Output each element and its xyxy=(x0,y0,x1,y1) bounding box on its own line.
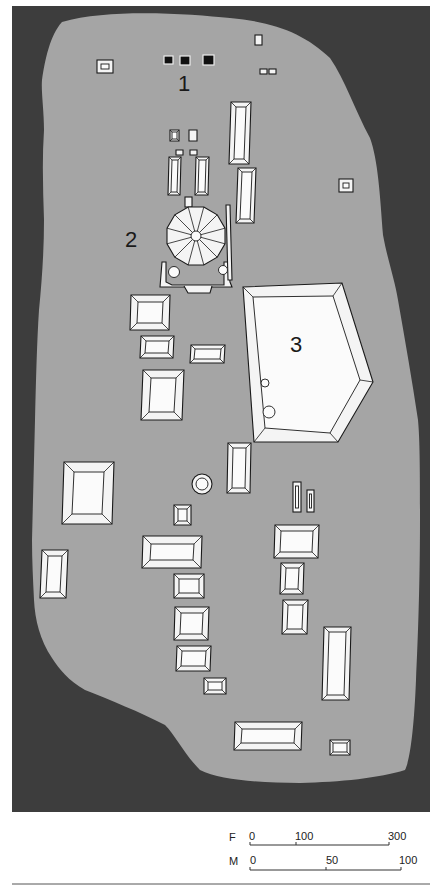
site-plan-map: 1 2 3 F 0 100 300 M 0 50 100 xyxy=(0,0,442,889)
scale-tick-label: 0 xyxy=(249,830,255,842)
beveled-platform xyxy=(170,130,179,141)
beveled-platform xyxy=(189,130,197,141)
beveled-platform xyxy=(62,462,114,524)
beveled-platform xyxy=(236,168,256,223)
beveled-platform xyxy=(195,157,209,195)
beveled-platform xyxy=(130,295,170,330)
small-building xyxy=(269,69,276,74)
area-label-3: 3 xyxy=(290,332,302,357)
circular-altar xyxy=(169,267,180,278)
small-platform xyxy=(293,482,301,512)
scale-unit-feet: F xyxy=(229,831,236,843)
scale-line-feet xyxy=(250,842,389,845)
dark-marker xyxy=(164,56,173,64)
small-platform xyxy=(307,490,314,512)
small-pyramid xyxy=(97,60,113,73)
beveled-platform xyxy=(330,740,350,755)
beveled-platform xyxy=(280,563,304,594)
small-pyramid xyxy=(339,179,353,192)
beveled-platform xyxy=(204,678,226,694)
circular-altar xyxy=(263,406,275,418)
scale-tick-label: 50 xyxy=(326,854,338,866)
beveled-platform xyxy=(274,525,319,558)
beveled-platform xyxy=(40,550,68,598)
area-label-2: 2 xyxy=(125,227,137,252)
scale-tick-label: 300 xyxy=(388,830,406,842)
beveled-platform xyxy=(229,102,251,164)
beveled-platform xyxy=(174,607,209,640)
beveled-platform xyxy=(176,150,183,155)
area-label-1: 1 xyxy=(178,71,190,96)
scale-bar-meters: M 0 50 100 xyxy=(229,854,417,870)
circular-altar xyxy=(261,379,269,387)
dark-marker xyxy=(203,55,214,65)
scale-line-meters xyxy=(250,867,401,870)
beveled-platform xyxy=(174,574,204,598)
rotunda-center xyxy=(191,231,201,241)
scale-tick-label: 100 xyxy=(399,854,417,866)
beveled-platform xyxy=(142,536,202,568)
beveled-platform xyxy=(174,505,191,525)
small-building xyxy=(260,69,267,74)
temple-stair xyxy=(184,286,212,293)
beveled-platform xyxy=(227,443,251,493)
beveled-platform xyxy=(141,370,184,420)
dark-marker xyxy=(180,56,190,65)
beveled-platform xyxy=(190,150,197,155)
scale-unit-meters: M xyxy=(229,855,238,867)
scale-bar-feet: F 0 100 300 xyxy=(229,830,406,845)
beveled-platform xyxy=(140,336,174,358)
beveled-platform xyxy=(234,722,302,750)
beveled-platform xyxy=(322,627,351,700)
temple-stair-top xyxy=(185,197,192,207)
ring-structure xyxy=(192,474,212,494)
small-building xyxy=(255,35,262,45)
scale-tick-label: 100 xyxy=(295,830,313,842)
beveled-platform xyxy=(176,646,211,671)
beveled-platform xyxy=(190,345,225,363)
beveled-platform xyxy=(282,600,308,634)
circular-altar xyxy=(219,266,228,275)
scale-tick-label: 0 xyxy=(250,854,256,866)
beveled-platform xyxy=(168,157,181,195)
